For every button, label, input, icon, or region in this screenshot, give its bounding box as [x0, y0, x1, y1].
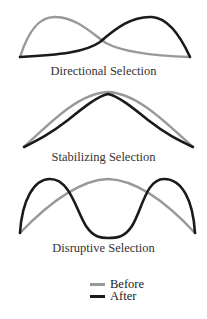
directional-selection-caption: Directional Selection	[0, 64, 207, 78]
legend-label-after: After	[110, 290, 136, 303]
stabilizing-selection-caption: Stabilizing Selection	[0, 150, 207, 164]
legend-item-after: After	[90, 290, 136, 303]
after-line-swatch-icon	[90, 295, 105, 298]
disruptive-selection-caption: Disruptive Selection	[0, 241, 207, 255]
stabilizing-before-curve	[24, 92, 193, 147]
stabilizing-selection-panel	[24, 92, 193, 147]
before-line-swatch-icon	[90, 283, 105, 286]
stabilizing-after-curve	[24, 94, 193, 147]
directional-selection-panel	[20, 17, 190, 57]
disruptive-before-curve	[20, 179, 195, 233]
disruptive-selection-panel	[20, 179, 195, 238]
directional-after-curve	[20, 17, 190, 57]
